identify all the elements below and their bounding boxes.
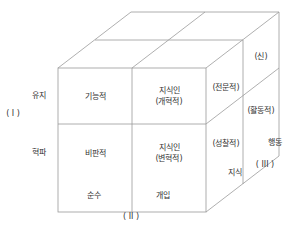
cell-functional-text: 기능적 xyxy=(85,92,106,101)
cell-critical-text: 비판적 xyxy=(85,149,106,158)
axis2-level-intervene: 개입 xyxy=(156,191,170,201)
side-cell-new: (신) xyxy=(254,51,267,62)
cell-intellectual-reformist-line1: 지식인 xyxy=(155,85,182,96)
axis1-label: ( I ) xyxy=(6,109,20,119)
axis3-level-action: 행동 xyxy=(268,138,282,148)
side-mid-divider xyxy=(206,68,279,124)
cube-diagram xyxy=(0,0,291,231)
side-cell-active: (활동적) xyxy=(247,105,274,116)
cell-functional: 기능적 xyxy=(85,91,106,102)
cell-critical: 비판적 xyxy=(85,148,106,159)
cell-intellectual-reformist-line2: (개혁적) xyxy=(155,96,182,107)
cell-intellectual-transformative-line1: 지식인 xyxy=(155,142,182,153)
axis1-level-abolish: 혁파 xyxy=(32,148,46,158)
side-cell-reflective: (성찰적) xyxy=(212,138,239,149)
axis2-level-pure: 순수 xyxy=(87,191,101,201)
axis3-label: ( III ) xyxy=(256,160,274,170)
axis3-level-knowledge: 지식 xyxy=(228,168,242,178)
cell-intellectual-transformative: 지식인 (변혁적) xyxy=(155,142,182,164)
axis2-label: ( II ) xyxy=(123,212,139,222)
cell-intellectual-transformative-line2: (변혁적) xyxy=(155,153,182,164)
axis1-level-keep: 유지 xyxy=(32,91,46,101)
cell-intellectual-reformist: 지식인 (개혁적) xyxy=(155,85,182,107)
side-cell-professional: (전문적) xyxy=(212,82,239,93)
